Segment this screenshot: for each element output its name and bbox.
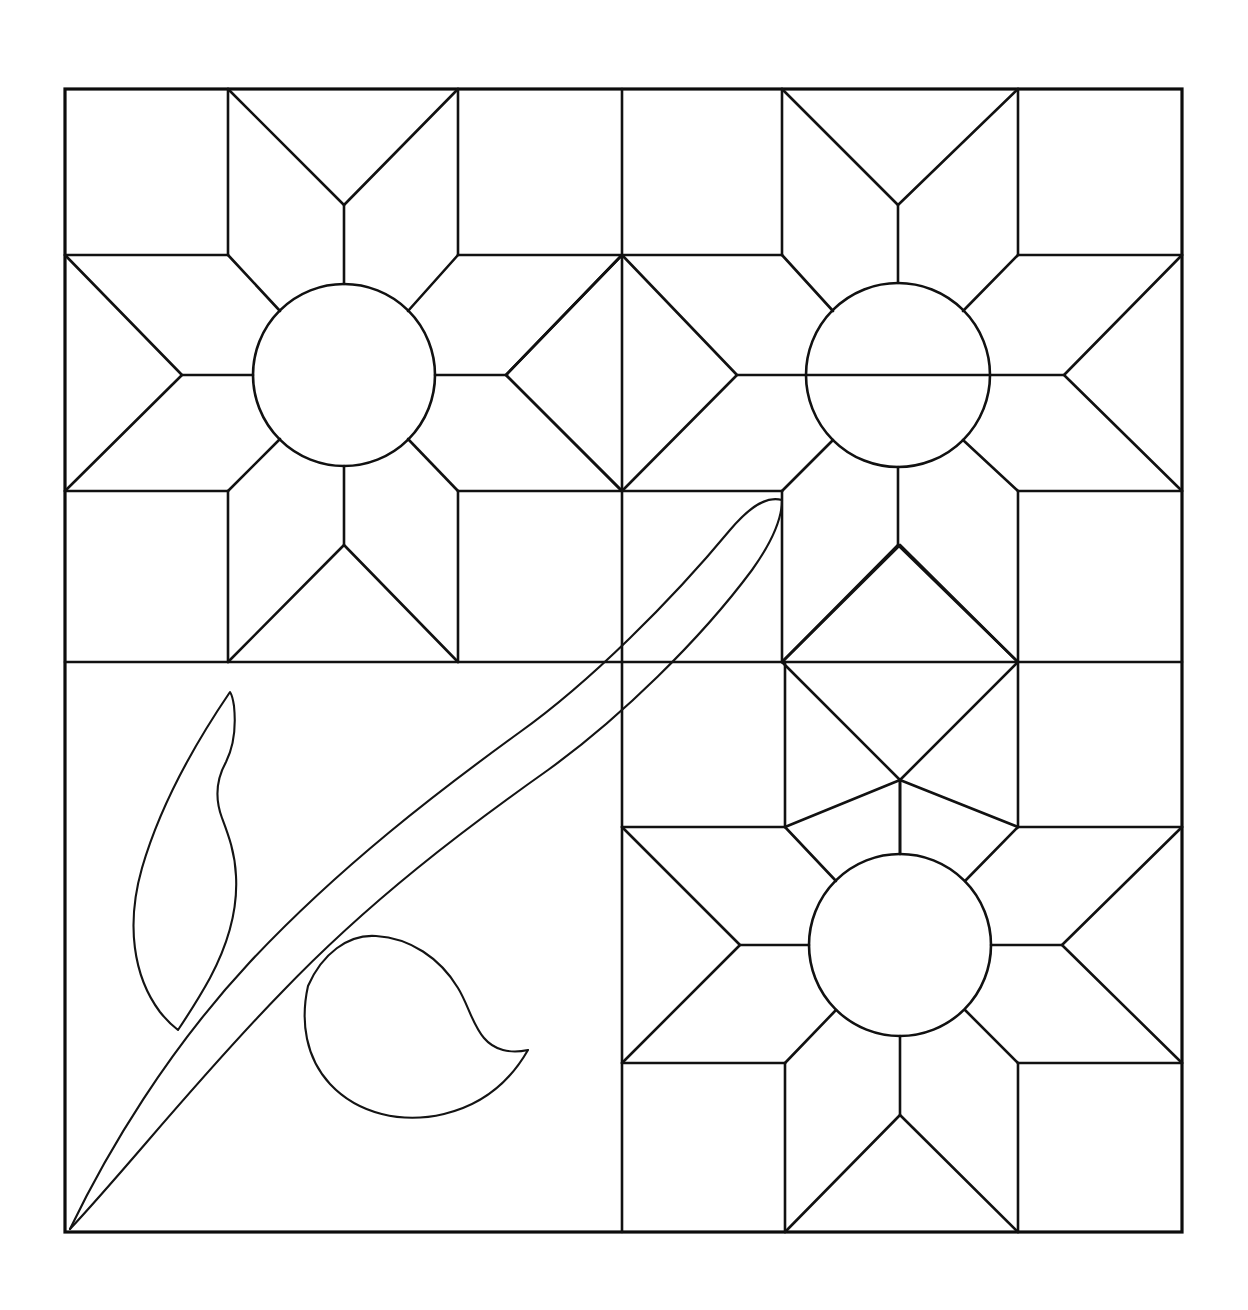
coloring-page-canvas: Quilt Block Coloring Page three-flower p… [0, 0, 1248, 1310]
page-background [0, 0, 1248, 1310]
quilt-block-drawing [0, 0, 1248, 1310]
